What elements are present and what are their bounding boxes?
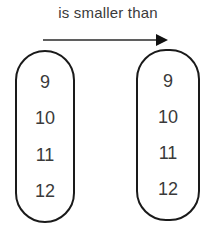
set-item: 12 [158,180,178,198]
set-item: 10 [158,108,178,126]
right-set-oval: 9 10 11 12 [136,49,200,221]
set-item: 12 [35,182,55,200]
set-item: 10 [35,109,55,127]
set-item: 11 [36,146,55,164]
left-set-oval: 9 10 11 12 [15,50,75,223]
set-item: 9 [163,72,173,90]
set-item: 9 [40,73,50,91]
set-item: 11 [159,144,178,162]
